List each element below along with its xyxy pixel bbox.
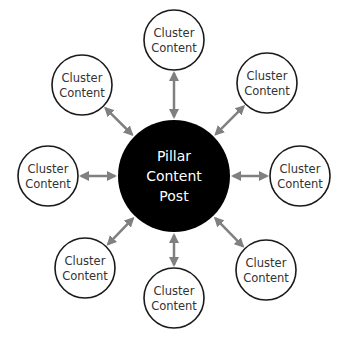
pillar-label: Content [146, 168, 202, 184]
cluster-label: Content [244, 84, 290, 98]
cluster-node-left: ClusterContent [18, 146, 78, 206]
cluster-label: Cluster [246, 256, 287, 270]
cluster-label: Content [151, 299, 197, 313]
bidirectional-arrow-bottom-left [108, 218, 133, 244]
cluster-node-top-right: ClusterContent [237, 53, 297, 113]
pillar-label: Post [159, 188, 189, 204]
cluster-node-bottom-left: ClusterContent [55, 238, 115, 298]
cluster-node-bottom-right: ClusterContent [236, 240, 296, 300]
cluster-label: Content [151, 41, 197, 55]
cluster-node-top: ClusterContent [144, 10, 204, 70]
cluster-label: Cluster [154, 26, 195, 40]
cluster-node-right: ClusterContent [270, 146, 330, 206]
cluster-label: Cluster [247, 69, 288, 83]
bidirectional-arrow-top-right [216, 106, 244, 134]
cluster-label: Cluster [280, 162, 321, 176]
pillar-label: Pillar [157, 148, 191, 164]
cluster-node-bottom: ClusterContent [144, 268, 204, 328]
cluster-label: Cluster [65, 254, 106, 268]
cluster-node-top-left: ClusterContent [52, 55, 112, 115]
bidirectional-arrow-bottom-right [215, 218, 243, 246]
cluster-label: Cluster [154, 284, 195, 298]
cluster-label: Content [59, 86, 105, 100]
pillar-node: PillarContentPost [118, 120, 230, 232]
cluster-label: Content [62, 269, 108, 283]
cluster-label: Content [277, 177, 323, 191]
pillar-cluster-diagram: ClusterContentClusterContentClusterConte… [0, 0, 348, 347]
bidirectional-arrow-top-left [105, 108, 132, 134]
cluster-label: Cluster [62, 71, 103, 85]
cluster-label: Content [25, 177, 71, 191]
cluster-label: Content [243, 271, 289, 285]
cluster-label: Cluster [28, 162, 69, 176]
